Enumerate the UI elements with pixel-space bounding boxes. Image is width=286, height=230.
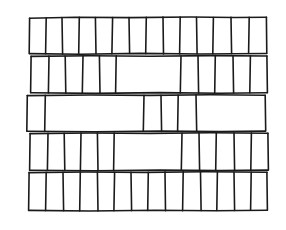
course-4-joint-9 — [251, 133, 252, 170]
course-2-joint-2 — [65, 56, 66, 93]
course-5-joint-8 — [165, 172, 166, 211]
course-5-joint-13 — [251, 172, 252, 210]
course-2-joint-9 — [250, 56, 251, 93]
course-5-joint-10 — [201, 172, 202, 211]
course-2-left-end — [31, 56, 32, 92]
course-1-joint-3 — [79, 17, 80, 54]
course-4-joint-4 — [97, 133, 98, 171]
course-4-top-edge — [30, 133, 268, 134]
course-2-joint-3 — [82, 56, 83, 93]
course-3-joint-3 — [161, 95, 162, 131]
course-1-joint-10 — [197, 17, 198, 54]
course-1-joint-2 — [62, 18, 63, 54]
course-1-joint-5 — [112, 18, 113, 54]
course-4-bottom-edge — [30, 170, 268, 171]
course-3-joint-4 — [178, 95, 179, 132]
course-5-joint-3 — [80, 172, 81, 211]
brick-wall-figure — [0, 0, 286, 230]
course-1-joint-12 — [231, 17, 232, 53]
course-2-joint-5 — [116, 56, 117, 93]
course-5-joint-9 — [183, 172, 184, 211]
course-4-joint-8 — [234, 133, 235, 170]
course-4-joint-5 — [114, 133, 115, 171]
course-4-wide-joint — [181, 133, 182, 170]
course-2-right-end — [267, 56, 268, 93]
course-3-left-end — [27, 96, 28, 132]
brick-wall-drawing — [0, 0, 286, 230]
course-1-joint-9 — [180, 17, 181, 54]
course-3-joint-5 — [196, 95, 197, 131]
course-2-joint-4 — [99, 56, 100, 94]
course-4-right-end — [268, 133, 269, 170]
course-5-joint-7 — [148, 172, 149, 210]
course-4-joint-7 — [216, 133, 217, 171]
course-2-top-edge — [31, 56, 267, 57]
course-2-joint-1 — [48, 56, 49, 93]
course-3-top-edge — [27, 95, 265, 96]
course-1-joint-1 — [46, 18, 47, 54]
course-2-wide-joint — [180, 56, 181, 93]
course-1-joint-6 — [129, 18, 130, 54]
course-4-joint-1 — [47, 133, 48, 170]
course-4-joint-2 — [64, 133, 65, 170]
course-5-joint-11 — [217, 172, 218, 210]
course-4-joint-6 — [199, 133, 200, 171]
course-5-joint-5 — [114, 172, 115, 211]
course-5-joint-6 — [131, 172, 132, 210]
course-3-joint-2 — [143, 95, 144, 131]
course-5-joint-2 — [63, 172, 64, 211]
course-5-right-end — [267, 172, 268, 210]
course-5-joint-12 — [234, 172, 235, 210]
course-1-joint-11 — [213, 18, 214, 54]
course-3-bottom-edge — [27, 131, 265, 132]
course-5-joint-1 — [46, 172, 47, 210]
course-2-joint-6 — [198, 56, 199, 93]
course-2-joint-8 — [233, 56, 234, 93]
course-1-joint-4 — [95, 18, 96, 54]
course-4-left-end — [30, 134, 31, 171]
course-3-joint-1 — [45, 95, 46, 131]
course-1-joint-13 — [249, 17, 250, 53]
course-3-right-end — [265, 95, 266, 131]
course-5-left-end — [29, 173, 30, 211]
course-4-joint-3 — [80, 133, 81, 171]
course-1-joint-7 — [146, 17, 147, 53]
course-5-joint-4 — [97, 172, 98, 211]
course-2-joint-7 — [215, 56, 216, 93]
course-1-joint-8 — [163, 17, 164, 54]
